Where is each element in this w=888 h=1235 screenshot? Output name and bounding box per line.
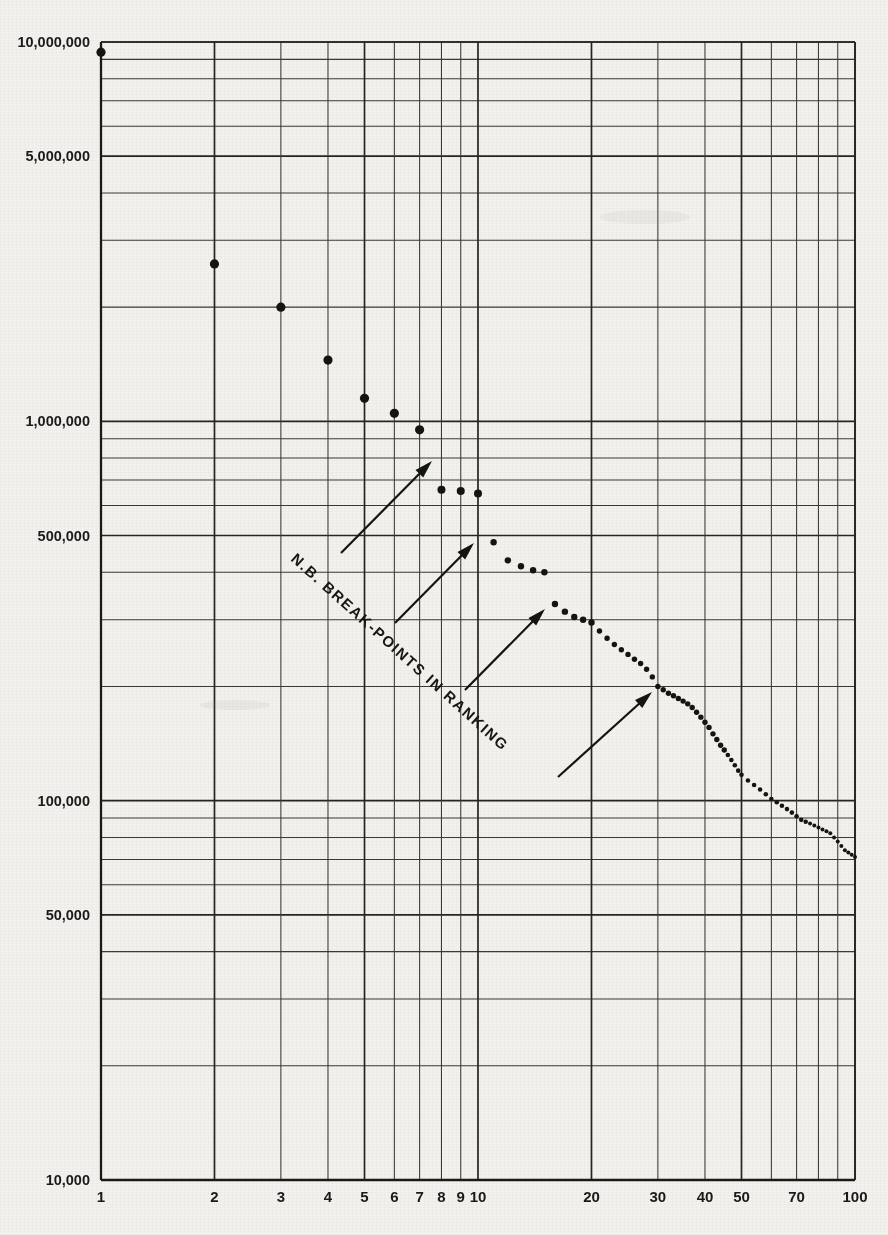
arrow-shaft xyxy=(341,470,423,553)
data-point xyxy=(490,539,496,545)
data-point xyxy=(650,674,655,679)
arrow-shaft xyxy=(465,618,536,690)
data-point xyxy=(736,768,741,773)
x-tick-label: 40 xyxy=(697,1188,714,1205)
x-tick-label: 70 xyxy=(788,1188,805,1205)
data-point xyxy=(276,303,285,312)
x-tick-label: 100 xyxy=(842,1188,867,1205)
data-point xyxy=(702,720,707,725)
data-point xyxy=(619,647,624,652)
x-axis-tick-labels: 123456789102030405070100 xyxy=(97,1188,868,1205)
arrow-shaft xyxy=(558,701,642,777)
x-tick-label: 9 xyxy=(457,1188,465,1205)
data-point xyxy=(588,619,594,625)
chart-canvas: 10,000,0005,000,0001,000,000500,000100,0… xyxy=(0,0,888,1235)
data-point xyxy=(733,763,738,768)
data-point xyxy=(836,840,840,844)
data-point xyxy=(714,737,719,742)
rank-size-log-log-chart: 10,000,0005,000,0001,000,000500,000100,0… xyxy=(0,0,888,1235)
data-point xyxy=(803,819,808,824)
data-point xyxy=(661,687,666,692)
y-tick-label: 50,000 xyxy=(46,907,90,923)
y-tick-label: 100,000 xyxy=(38,793,90,809)
data-point xyxy=(746,778,751,783)
data-point xyxy=(644,667,649,672)
x-tick-label: 4 xyxy=(324,1188,333,1205)
x-tick-label: 8 xyxy=(437,1188,445,1205)
data-point xyxy=(769,797,774,802)
data-point xyxy=(794,814,799,819)
x-tick-label: 2 xyxy=(210,1188,218,1205)
data-point xyxy=(530,567,536,573)
data-point xyxy=(799,818,804,823)
data-point xyxy=(780,803,785,808)
data-point xyxy=(816,825,820,829)
data-point xyxy=(698,714,703,719)
x-tick-label: 20 xyxy=(583,1188,600,1205)
data-point xyxy=(360,394,369,403)
y-tick-label: 5,000,000 xyxy=(25,148,90,164)
data-point xyxy=(632,657,637,662)
y-tick-label: 10,000,000 xyxy=(17,34,90,50)
data-point xyxy=(710,731,715,736)
data-point xyxy=(821,827,825,831)
data-point xyxy=(790,810,795,815)
data-point xyxy=(832,835,836,839)
data-point xyxy=(323,356,332,365)
x-tick-label: 30 xyxy=(650,1188,667,1205)
data-point xyxy=(625,652,630,657)
break-point-arrow-2 xyxy=(395,543,474,623)
data-point xyxy=(505,557,511,563)
data-point xyxy=(729,758,734,763)
data-point xyxy=(694,710,699,715)
data-point xyxy=(846,851,850,855)
break-point-arrow-3 xyxy=(465,609,545,690)
data-point xyxy=(437,486,445,494)
arrow-shaft xyxy=(395,552,465,623)
data-point xyxy=(774,800,779,805)
break-point-arrow-1 xyxy=(341,461,432,553)
data-point xyxy=(706,725,711,730)
data-point xyxy=(722,747,727,752)
data-point xyxy=(812,824,816,828)
data-point xyxy=(680,698,685,703)
break-point-arrow-4 xyxy=(558,692,652,777)
y-tick-label: 500,000 xyxy=(38,528,90,544)
data-point xyxy=(612,642,617,647)
data-point xyxy=(638,661,643,666)
data-point xyxy=(518,563,524,569)
x-tick-label: 10 xyxy=(470,1188,487,1205)
data-point xyxy=(390,409,399,418)
data-series-city-size-by-rank xyxy=(96,48,857,859)
data-point xyxy=(597,628,602,633)
x-tick-label: 7 xyxy=(415,1188,423,1205)
data-point xyxy=(824,829,828,833)
data-point xyxy=(457,487,465,495)
data-point xyxy=(739,773,744,778)
data-point xyxy=(604,636,609,641)
data-point xyxy=(552,601,558,607)
y-axis-tick-labels: 10,000,0005,000,0001,000,000500,000100,0… xyxy=(17,34,90,1188)
data-point xyxy=(580,616,586,622)
data-point xyxy=(671,693,676,698)
data-point xyxy=(96,48,105,57)
data-point xyxy=(676,696,681,701)
y-tick-label: 10,000 xyxy=(46,1172,90,1188)
x-tick-label: 6 xyxy=(390,1188,398,1205)
data-point xyxy=(718,743,723,748)
data-point xyxy=(785,807,790,812)
data-point xyxy=(541,569,547,575)
data-point xyxy=(685,701,690,706)
data-point xyxy=(850,853,854,857)
data-point xyxy=(764,792,769,797)
data-point xyxy=(571,614,577,620)
data-point xyxy=(839,844,843,848)
x-tick-label: 50 xyxy=(733,1188,750,1205)
x-tick-label: 5 xyxy=(360,1188,368,1205)
y-tick-label: 1,000,000 xyxy=(25,413,90,429)
data-point xyxy=(415,425,424,434)
x-tick-label: 1 xyxy=(97,1188,105,1205)
x-gridlines xyxy=(101,42,855,1180)
data-point xyxy=(853,855,857,859)
data-point xyxy=(843,848,847,852)
